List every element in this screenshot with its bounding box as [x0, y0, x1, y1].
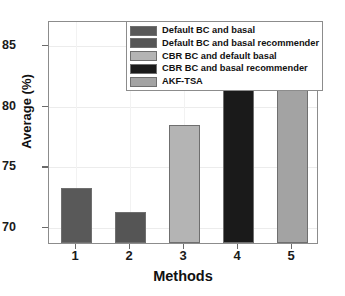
y-tick-label-70: 70 [0, 221, 16, 234]
legend-label-0: Default BC and basal [162, 26, 255, 35]
bar-3 [169, 125, 200, 243]
legend-swatch-icon-1 [130, 38, 157, 48]
x-tick-mark-3 [183, 244, 184, 249]
x-tick-label-2: 2 [109, 249, 149, 262]
x-axis-label: Methods [48, 268, 318, 284]
legend-item-3: CBR BC and basal recommender [130, 63, 320, 75]
bar-1 [61, 188, 92, 243]
legend-swatch-icon-3 [130, 64, 157, 74]
legend-label-2: CBR BC and default basal [162, 52, 277, 61]
y-tick-label-80: 80 [0, 100, 16, 113]
legend-item-4: AKF-TSA [130, 76, 320, 88]
legend-swatch-icon-2 [130, 51, 157, 61]
legend-swatch-icon-0 [130, 26, 157, 36]
x-tick-mark-2 [129, 244, 130, 249]
x-tick-label-5: 5 [271, 249, 311, 262]
bar-4 [223, 66, 254, 243]
legend: Default BC and basalDefault BC and basal… [126, 21, 323, 91]
x-tick-mark-1 [75, 244, 76, 249]
bar-chart: Average (%) 70758085 12345 Methods Defau… [0, 0, 345, 296]
legend-item-2: CBR BC and default basal [130, 50, 320, 62]
x-tick-label-4: 4 [217, 249, 257, 262]
y-axis-label: Average (%) [19, 42, 34, 182]
x-tick-label-3: 3 [163, 249, 203, 262]
legend-swatch-icon-4 [130, 77, 157, 87]
x-tick-label-1: 1 [55, 249, 95, 262]
x-tick-mark-5 [291, 244, 292, 249]
legend-label-1: Default BC and basal recommender [162, 39, 319, 48]
legend-label-4: AKF-TSA [162, 77, 203, 86]
bar-2 [115, 212, 146, 244]
y-tick-label-85: 85 [0, 39, 16, 52]
legend-item-0: Default BC and basal [130, 24, 320, 36]
legend-label-3: CBR BC and basal recommender [162, 64, 308, 73]
x-tick-mark-4 [237, 244, 238, 249]
y-tick-label-75: 75 [0, 160, 16, 173]
legend-item-1: Default BC and basal recommender [130, 37, 320, 49]
